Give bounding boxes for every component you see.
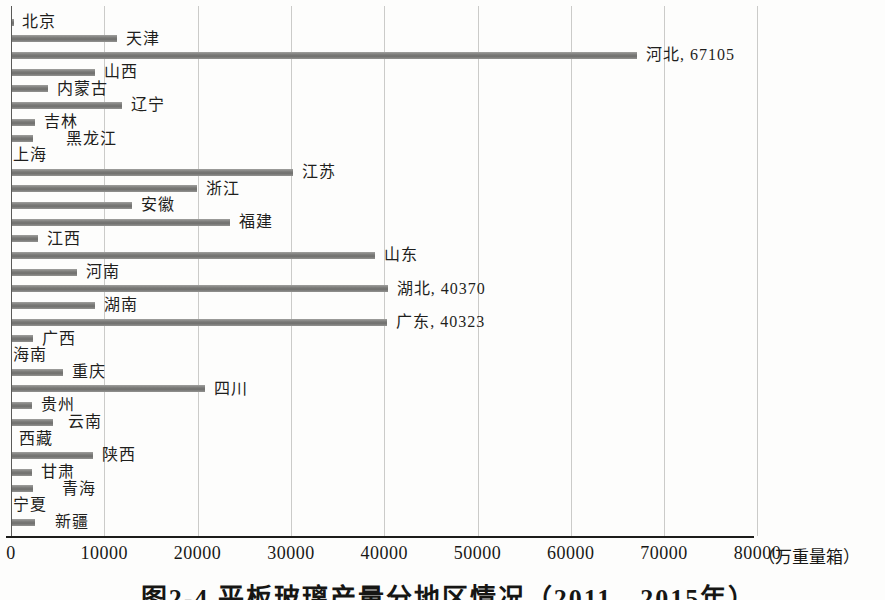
category-label: 湖北, 40370: [397, 280, 486, 298]
category-bar: [11, 269, 77, 276]
gridline: [664, 6, 665, 536]
category-label: 四川: [214, 380, 248, 398]
category-label: 天津: [126, 30, 160, 48]
category-bar: [11, 302, 95, 309]
x-tick-label: 70000: [640, 543, 688, 564]
category-bar: [11, 452, 93, 459]
category-label: 贵州: [41, 396, 75, 414]
gridline: [757, 6, 758, 536]
x-tick-label: 10000: [81, 543, 129, 564]
category-bar: [11, 469, 32, 476]
category-label: 宁夏: [13, 496, 47, 514]
category-label: 福建: [239, 213, 273, 231]
category-label: 浙江: [206, 180, 240, 198]
category-bar: [11, 35, 117, 42]
category-label: 新疆: [55, 513, 89, 531]
category-label: 辽宁: [131, 96, 165, 114]
category-label: 河南: [86, 263, 120, 281]
category-label: 湖南: [104, 296, 138, 314]
category-label: 江西: [47, 230, 81, 248]
category-label: 广东, 40323: [396, 313, 485, 331]
category-bar: [11, 119, 35, 126]
category-bar: [11, 69, 95, 76]
category-bar: [11, 169, 293, 176]
x-axis-unit-label: （万重量箱）: [758, 543, 860, 568]
category-label: 陕西: [102, 446, 136, 464]
x-tick-label: 30000: [267, 543, 315, 564]
gridline: [571, 6, 572, 536]
figure-caption: 图2-4 平板玻璃产量分地区情况（2011—2015年）: [6, 577, 885, 600]
category-label: 海南: [13, 346, 47, 364]
category-label: 西藏: [19, 430, 53, 448]
gridline: [291, 6, 292, 536]
figure: 北京天津河北, 67105山西内蒙古辽宁吉林黑龙江上海江苏浙江安徽福建江西山东河…: [0, 0, 885, 600]
category-bar: [11, 219, 230, 226]
gridline: [478, 6, 479, 536]
category-label: 内蒙古: [57, 80, 108, 98]
gridline: [384, 6, 385, 536]
category-bar: [11, 252, 375, 259]
gridline: [198, 6, 199, 536]
category-bar: [11, 335, 33, 342]
category-label: 甘肃: [41, 463, 75, 481]
category-bar: [11, 85, 48, 92]
x-tick-label: 60000: [547, 543, 595, 564]
category-bar: [11, 52, 637, 59]
category-bar: [11, 102, 122, 109]
x-tick-label: 50000: [454, 543, 502, 564]
category-bar: [11, 519, 35, 526]
category-label: 北京: [22, 13, 56, 31]
category-label: 云南: [68, 413, 102, 431]
category-label: 吉林: [44, 113, 78, 131]
x-tick-label: 40000: [360, 543, 408, 564]
category-bar: [11, 135, 33, 142]
plot-area: 北京天津河北, 67105山西内蒙古辽宁吉林黑龙江上海江苏浙江安徽福建江西山东河…: [0, 0, 885, 600]
category-label: 黑龙江: [66, 130, 117, 148]
category-label: 上海: [13, 146, 47, 164]
category-label: 广西: [42, 330, 76, 348]
category-label: 青海: [62, 480, 96, 498]
category-bar: [11, 369, 63, 376]
category-bar: [11, 402, 32, 409]
category-label: 山东: [384, 246, 418, 264]
x-tick-label: 0: [6, 543, 16, 564]
category-label: 山西: [104, 63, 138, 81]
category-bar: [11, 419, 53, 426]
category-bar: [11, 485, 33, 492]
category-label: 江苏: [302, 163, 336, 181]
category-label: 河北, 67105: [646, 46, 735, 64]
category-bar: [11, 285, 388, 292]
x-tick-label: 20000: [174, 543, 222, 564]
category-label: 安徽: [141, 196, 175, 214]
category-bar: [11, 202, 132, 209]
category-bar: [11, 185, 197, 192]
category-label: 重庆: [72, 363, 106, 381]
y-axis-line: [11, 6, 12, 536]
category-bar: [11, 319, 387, 326]
category-bar: [11, 385, 205, 392]
x-axis-line: [6, 536, 754, 538]
category-bar: [11, 235, 38, 242]
